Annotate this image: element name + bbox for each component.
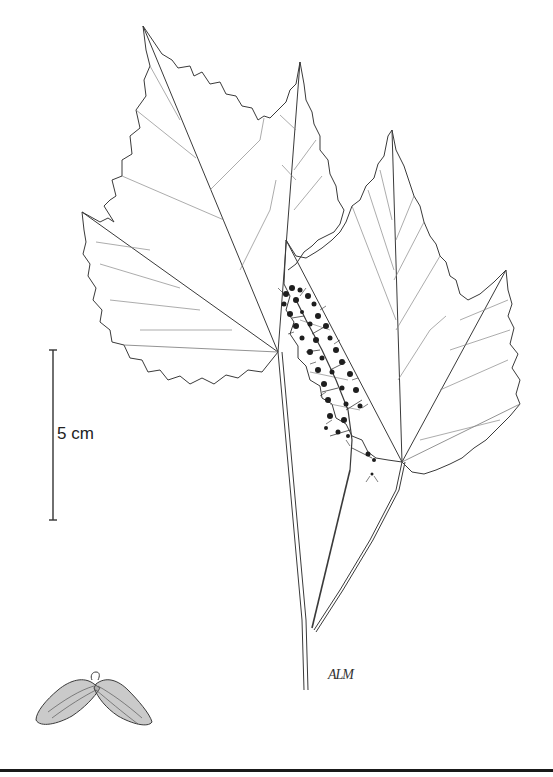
bottom-border-line	[0, 769, 553, 772]
flower-clusters	[282, 285, 377, 476]
leaf-right	[284, 130, 520, 474]
scale-bar-label: 5 cm	[57, 424, 94, 444]
stems	[278, 352, 405, 690]
flower-raceme	[292, 300, 372, 470]
flower-stamens	[278, 288, 378, 482]
scale-bar	[49, 350, 57, 520]
leaf-upper-left	[82, 26, 344, 384]
samara-fruit	[36, 672, 152, 725]
botanical-illustration	[0, 0, 553, 777]
artist-signature: ALM	[328, 667, 353, 683]
